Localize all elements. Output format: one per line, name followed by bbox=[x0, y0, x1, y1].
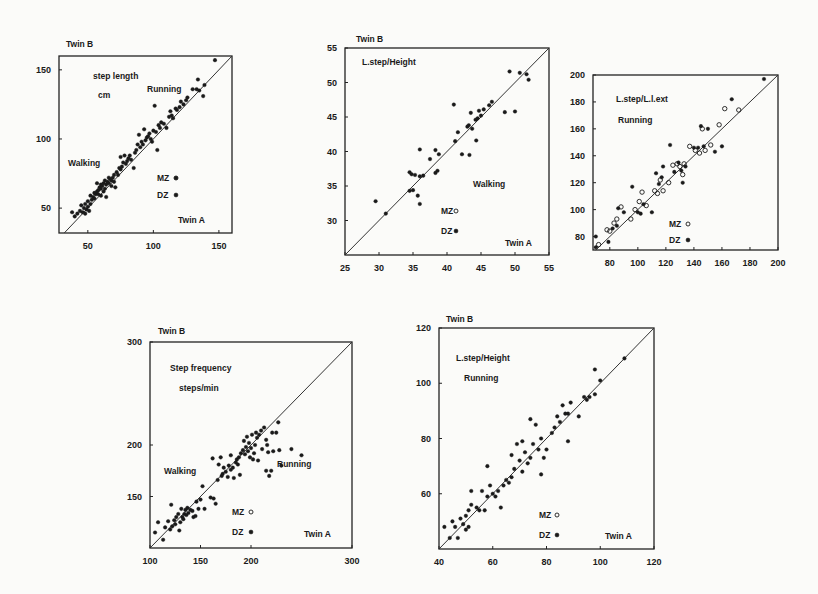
data-point bbox=[177, 529, 181, 533]
legend-dz-marker bbox=[174, 193, 178, 197]
data-point bbox=[252, 451, 256, 455]
data-point bbox=[169, 110, 173, 114]
walking-label: Walking bbox=[164, 466, 196, 476]
data-point bbox=[217, 463, 221, 467]
data-point bbox=[259, 429, 263, 433]
data-point bbox=[213, 58, 217, 62]
x-tick-label: 40 bbox=[442, 263, 452, 273]
data-point bbox=[418, 148, 422, 152]
data-point bbox=[657, 182, 661, 186]
x-tick-label: 120 bbox=[646, 557, 661, 567]
x-axis-label: Twin A bbox=[605, 531, 632, 541]
data-point bbox=[451, 520, 455, 524]
data-point bbox=[290, 447, 294, 451]
data-point bbox=[531, 442, 535, 446]
data-point bbox=[542, 456, 546, 460]
data-point bbox=[566, 412, 570, 416]
legend-dz-marker bbox=[555, 533, 559, 537]
data-point bbox=[107, 181, 111, 185]
data-point bbox=[539, 437, 543, 441]
data-point bbox=[247, 441, 251, 445]
data-point bbox=[179, 520, 183, 524]
data-point bbox=[486, 464, 490, 468]
data-point bbox=[416, 194, 420, 198]
data-points bbox=[153, 421, 303, 542]
data-points bbox=[70, 58, 216, 218]
data-point bbox=[262, 426, 266, 430]
data-point bbox=[513, 110, 517, 114]
data-point bbox=[236, 463, 240, 467]
data-point bbox=[469, 503, 473, 507]
data-point bbox=[171, 116, 175, 120]
data-point bbox=[615, 224, 619, 228]
data-point bbox=[629, 217, 633, 221]
data-point bbox=[623, 357, 627, 361]
data-point bbox=[480, 489, 484, 493]
y-tick-label: 120 bbox=[570, 178, 585, 188]
data-point bbox=[577, 415, 581, 419]
data-point bbox=[129, 158, 133, 162]
data-point bbox=[421, 174, 425, 178]
data-point bbox=[730, 97, 734, 101]
data-point bbox=[504, 478, 508, 482]
data-point bbox=[237, 456, 241, 460]
data-point bbox=[410, 172, 414, 176]
y-tick-label: 100 bbox=[36, 134, 51, 144]
data-point bbox=[89, 194, 93, 198]
data-point bbox=[107, 176, 111, 180]
y-tick-label: 200 bbox=[570, 70, 585, 80]
data-point bbox=[256, 459, 260, 463]
data-point bbox=[114, 186, 118, 190]
data-point bbox=[267, 474, 271, 478]
data-point bbox=[238, 473, 242, 477]
data-point bbox=[186, 96, 190, 100]
data-point bbox=[661, 165, 665, 169]
y-tick-label: 100 bbox=[570, 205, 585, 215]
data-point bbox=[162, 122, 166, 126]
data-point bbox=[191, 87, 195, 91]
data-point bbox=[374, 199, 378, 203]
data-point bbox=[216, 478, 220, 482]
data-point bbox=[678, 164, 682, 168]
data-point bbox=[89, 202, 93, 206]
data-point bbox=[428, 157, 432, 161]
data-point bbox=[566, 439, 570, 443]
data-point bbox=[630, 185, 634, 189]
data-point bbox=[494, 495, 498, 499]
data-point bbox=[467, 509, 471, 513]
data-point bbox=[503, 110, 507, 114]
twin-scatter-figure: 5010015050100150Twin BTwin Astep lengthc… bbox=[0, 0, 818, 594]
x-tick-label: 80 bbox=[541, 557, 551, 567]
data-point bbox=[197, 507, 201, 511]
data-point bbox=[483, 509, 487, 513]
data-point bbox=[640, 190, 644, 194]
data-point bbox=[165, 126, 169, 130]
x-tick-label: 150 bbox=[193, 556, 208, 566]
data-point bbox=[681, 181, 685, 185]
data-point bbox=[73, 215, 77, 219]
data-point bbox=[529, 417, 533, 421]
data-point bbox=[102, 190, 106, 194]
data-point bbox=[119, 155, 123, 159]
data-point bbox=[87, 209, 91, 213]
data-point bbox=[593, 368, 597, 372]
data-point bbox=[138, 145, 142, 149]
data-point bbox=[251, 458, 255, 462]
data-point bbox=[437, 152, 441, 156]
data-point bbox=[460, 152, 464, 156]
panel-subtitle: Running bbox=[618, 115, 652, 125]
data-point bbox=[561, 404, 565, 408]
data-point bbox=[83, 202, 87, 206]
panel-title: L.step/L.l.ext bbox=[616, 94, 668, 104]
data-point bbox=[525, 72, 529, 76]
data-point bbox=[737, 108, 741, 112]
data-point bbox=[274, 431, 278, 435]
data-point bbox=[245, 435, 249, 439]
x-tick-label: 45 bbox=[476, 263, 486, 273]
data-point bbox=[550, 431, 554, 435]
x-tick-label: 35 bbox=[408, 263, 418, 273]
scatter-panel-p4: 100150200300150200300Twin BTwin AStep fr… bbox=[127, 326, 360, 566]
data-point bbox=[232, 476, 236, 480]
y-axis-label: Twin B bbox=[356, 34, 383, 44]
x-tick-label: 140 bbox=[686, 258, 701, 268]
